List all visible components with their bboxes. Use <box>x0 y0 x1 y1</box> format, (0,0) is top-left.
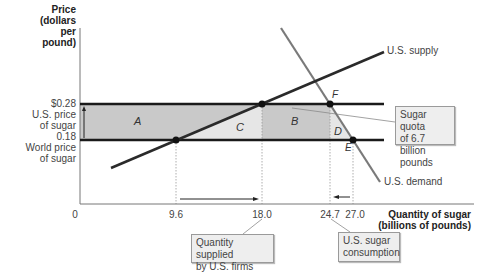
x-tick-18-0: 18.0 <box>252 209 271 220</box>
supplied-pointer <box>243 219 262 234</box>
x-tick-9-6: 9.6 <box>169 209 183 220</box>
region-d-label: D <box>334 125 342 137</box>
region-b-label: B <box>291 115 298 127</box>
quota-callout: Sugar quota of 6.7 billion pounds <box>395 106 455 145</box>
x-title-line: Quantity of sugar <box>378 209 471 220</box>
callout-line: Quantity supplied <box>196 237 269 261</box>
world-price-value: 0.18 <box>26 131 76 142</box>
x-axis-title: Quantity of sugar (billions of pounds) <box>378 209 471 231</box>
supplied-callout: Quantity supplied by U.S. firms <box>191 234 274 263</box>
y-title-line: per <box>20 26 76 37</box>
world-price-label: of sugar <box>26 153 76 164</box>
supply-label: U.S. supply <box>387 45 438 56</box>
world-price-label: World price <box>26 142 76 153</box>
region-a-label: A <box>134 115 141 127</box>
point-18-0 <box>259 101 266 108</box>
point-9-6 <box>173 137 180 144</box>
callout-line: Sugar quota <box>400 109 450 133</box>
callout-line: pounds <box>400 157 450 169</box>
callout-line: consumption <box>343 247 395 259</box>
arrow-right-head <box>253 197 259 201</box>
us-price-label: U.S. price <box>26 109 76 120</box>
y-axis-title: Price (dollars per pound) <box>20 4 76 48</box>
arrow-left-head <box>333 195 339 199</box>
x-tick-27-0: 27.0 <box>345 209 364 220</box>
y-title-line: pound) <box>20 37 76 48</box>
y-title-line: Price <box>20 4 76 15</box>
us-price-label: of sugar <box>26 120 76 131</box>
us-price-labels: $0.28 U.S. price of sugar 0.18 World pri… <box>26 98 76 164</box>
consumption-pointer <box>331 219 350 232</box>
x-title-line: (billions of pounds) <box>378 220 471 231</box>
x-tick-24-7: 24.7 <box>320 209 339 220</box>
callout-line: U.S. sugar <box>343 235 395 247</box>
y-title-line: (dollars <box>20 15 76 26</box>
callout-line: by U.S. firms <box>196 261 269 273</box>
point-e-label: E <box>345 142 352 153</box>
point-f-label: F <box>332 89 338 100</box>
point-f <box>327 101 334 108</box>
region-c-label: C <box>236 121 244 133</box>
callout-line: of 6.7 billion <box>400 133 450 157</box>
us-price-value: $0.28 <box>26 98 76 109</box>
consumption-callout: U.S. sugar consumption <box>338 232 400 262</box>
x-tick-0: 0 <box>72 209 78 220</box>
demand-label: U.S. demand <box>384 176 442 187</box>
